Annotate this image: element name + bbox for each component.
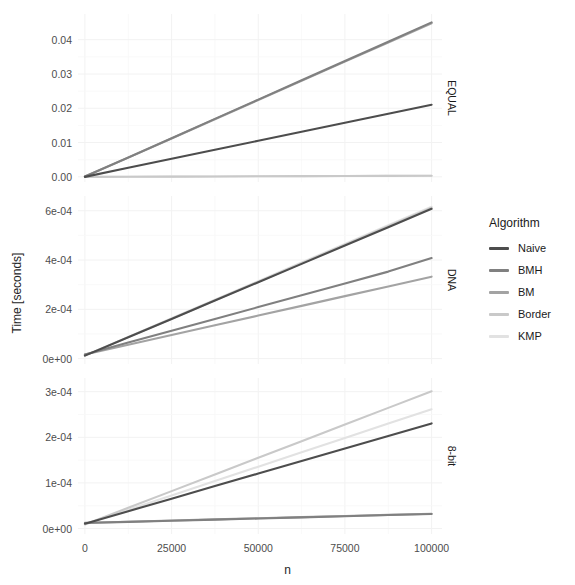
strip-label-dna: DNA	[444, 196, 460, 364]
legend-item-kmp[interactable]: KMP	[489, 325, 575, 347]
x-tick-label: 75000	[330, 542, 359, 554]
y-tick-label: 0.03	[26, 68, 72, 80]
facet-line-chart: Time [seconds] n 0.000.010.020.030.040e+…	[0, 0, 575, 585]
legend-key-line-icon	[489, 313, 509, 316]
legend-key-line-icon	[489, 269, 509, 272]
x-tick-label: 0	[82, 542, 88, 554]
legend-item-bmh[interactable]: BMH	[489, 259, 575, 281]
legend-item-label: BMH	[518, 264, 542, 276]
legend-key-line-icon	[489, 291, 509, 294]
panel-dna	[78, 196, 442, 364]
legend-item-label: Border	[518, 308, 551, 320]
series-line-border	[85, 176, 432, 177]
y-tick-label: 4e-04	[26, 254, 72, 266]
legend-title: Algorithm	[489, 216, 575, 230]
panel-equal	[78, 14, 442, 182]
y-tick-label: 2e-04	[26, 431, 72, 443]
y-axis-title-text: Time [seconds]	[10, 252, 24, 333]
y-tick-label: 0e+00	[26, 353, 72, 365]
strip-label-8-bit: 8-bit	[444, 378, 460, 534]
panel-8-bit	[78, 378, 442, 534]
y-tick-label: 0.02	[26, 102, 72, 114]
legend-item-border[interactable]: Border	[489, 303, 575, 325]
legend-item-naive[interactable]: Naive	[489, 237, 575, 259]
x-axis-title: n	[0, 563, 575, 577]
legend-key-line-icon	[489, 335, 509, 338]
y-tick-label: 2e-04	[26, 303, 72, 315]
legend-item-label: KMP	[518, 330, 542, 342]
y-tick-label: 0.04	[26, 34, 72, 46]
y-tick-label: 1e-04	[26, 477, 72, 489]
legend-items: NaiveBMHBMBorderKMP	[489, 237, 575, 347]
y-axis-title: Time [seconds]	[6, 0, 28, 585]
legend-item-label: BM	[518, 286, 535, 298]
legend-item-label: Naive	[518, 242, 546, 254]
legend: Algorithm NaiveBMHBMBorderKMP	[489, 216, 575, 347]
legend-key-line-icon	[489, 247, 509, 250]
y-tick-label: 6e-04	[26, 205, 72, 217]
y-tick-label: 3e-04	[26, 386, 72, 398]
strip-label-equal: EQUAL	[444, 14, 460, 182]
x-tick-label: 50000	[244, 542, 273, 554]
y-tick-label: 0.00	[26, 171, 72, 183]
y-tick-label: 0.01	[26, 137, 72, 149]
x-tick-label: 25000	[157, 542, 186, 554]
x-tick-label: 100000	[414, 542, 449, 554]
y-tick-label: 0e+00	[26, 523, 72, 535]
legend-item-bm[interactable]: BM	[489, 281, 575, 303]
x-axis-title-text: n	[284, 563, 291, 577]
